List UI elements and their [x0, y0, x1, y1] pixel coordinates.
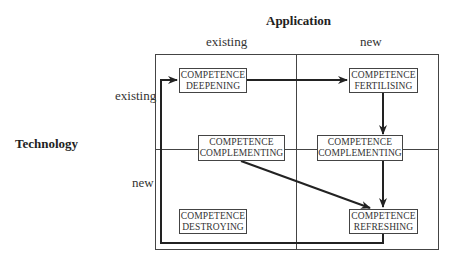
box-line1: COMPETENCE: [180, 211, 246, 222]
box-line1: COMPETENCE: [180, 70, 246, 81]
box-competence-fertilising: COMPETENCE FERTILISING: [349, 68, 418, 93]
box-line2: FERTILISING: [350, 81, 417, 92]
box-competence-destroying: COMPETENCE DESTROYING: [179, 209, 247, 234]
box-line2: COMPLEMENTING: [318, 148, 402, 159]
box-line1: COMPETENCE: [350, 70, 417, 81]
box-line1: COMPETENCE: [199, 137, 284, 148]
box-competence-complementing-right: COMPETENCE COMPLEMENTING: [317, 135, 403, 161]
box-line1: COMPETENCE: [350, 211, 417, 222]
box-line2: REFRESHING: [350, 222, 417, 233]
box-line1: COMPETENCE: [318, 137, 402, 148]
box-competence-deepening: COMPETENCE DEEPENING: [179, 68, 247, 93]
box-line2: DESTROYING: [180, 222, 246, 233]
arrow-complementing-left-to-refreshing: [241, 161, 370, 208]
box-competence-refreshing: COMPETENCE REFRESHING: [349, 209, 418, 234]
box-line2: DEEPENING: [180, 81, 246, 92]
box-line2: COMPLEMENTING: [199, 148, 284, 159]
box-competence-complementing-left: COMPETENCE COMPLEMENTING: [198, 135, 285, 161]
